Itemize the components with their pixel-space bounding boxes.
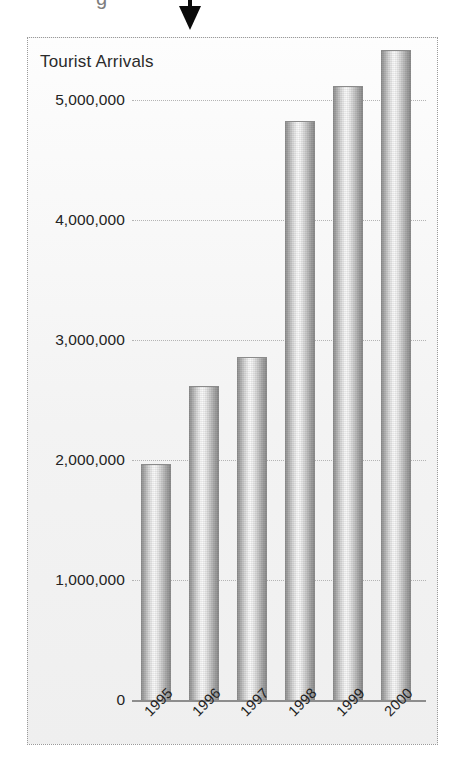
down-arrow-icon (179, 0, 201, 30)
bar-2000 (381, 50, 411, 700)
bar-1995 (141, 464, 171, 700)
bar-1996 (189, 386, 219, 700)
arrow-head (179, 6, 201, 30)
scan-artifact-band: g (0, 0, 464, 38)
bar-1997 (237, 357, 267, 700)
ytick-label-4000000: 4,000,000 (55, 211, 125, 229)
chart-figure: Tourist Arrivals 5,000,000 4,000,000 3,0… (27, 37, 438, 745)
bar-1998 (285, 121, 315, 700)
ytick-label-0: 0 (116, 691, 125, 709)
ytick-label-5000000: 5,000,000 (55, 91, 125, 109)
x-axis-baseline (132, 700, 426, 702)
ytick-label-3000000: 3,000,000 (55, 331, 125, 349)
bar-chart-plot-area: 5,000,000 4,000,000 3,000,000 2,000,000 … (28, 38, 439, 746)
ytick-label-1000000: 1,000,000 (55, 571, 125, 589)
bar-1999 (333, 86, 363, 700)
ytick-label-2000000: 2,000,000 (55, 451, 125, 469)
clipped-caption-above-figure: g (96, 0, 108, 10)
